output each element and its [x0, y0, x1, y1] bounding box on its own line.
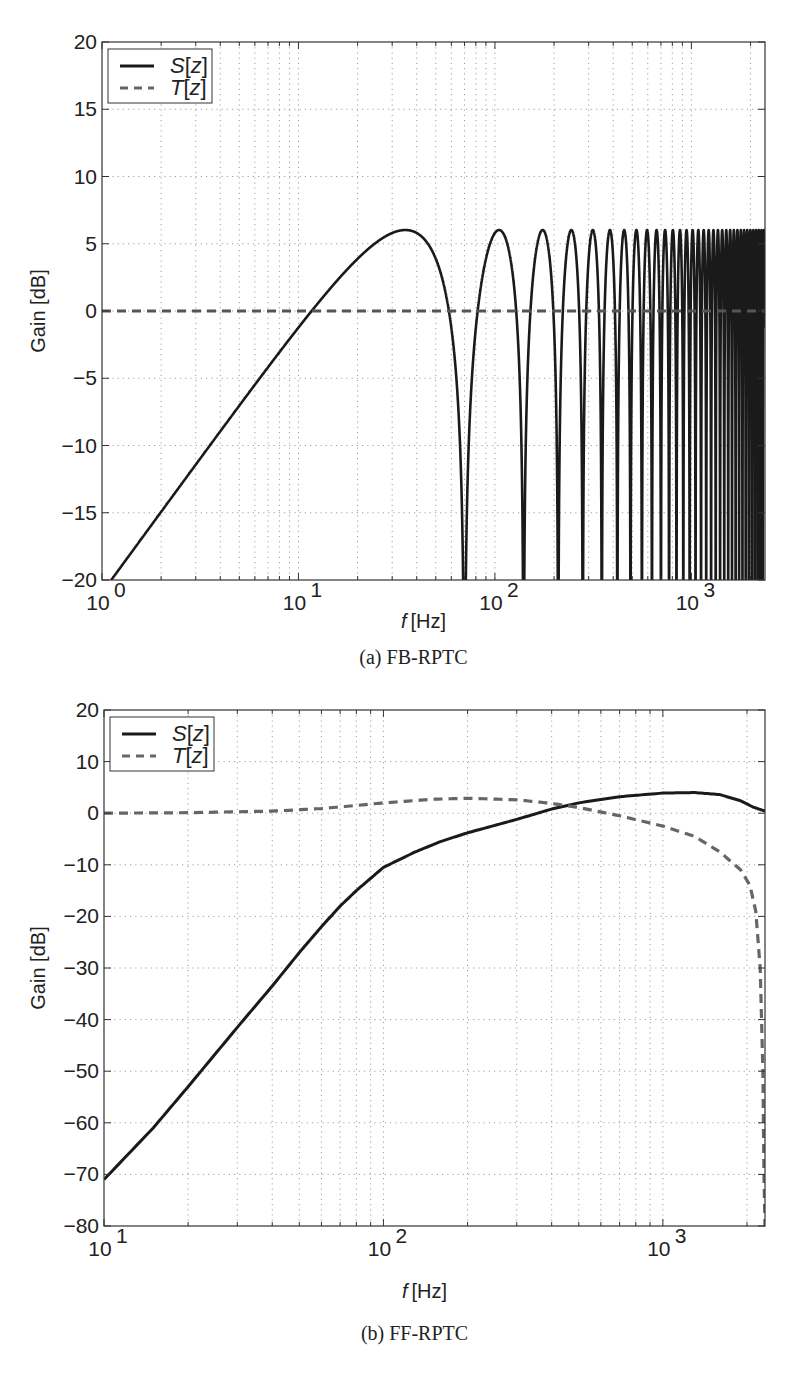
x-tick-exponent: 0 — [114, 578, 126, 601]
y-tick-label: −40 — [63, 1008, 99, 1031]
x-tick-label: 10 — [647, 1237, 670, 1260]
y-tick-label: 20 — [76, 698, 99, 721]
y-tick-label: 0 — [87, 801, 99, 824]
x-tick-exponent: 3 — [703, 578, 715, 601]
y-tick-label: −10 — [61, 434, 97, 457]
y-tick-label: 10 — [76, 750, 99, 773]
y-tick-label: 20 — [74, 30, 97, 53]
y-tick-label: −20 — [61, 568, 97, 591]
curves-b — [104, 793, 765, 1226]
y-tick-label: −10 — [63, 853, 99, 876]
y-tick-label: 15 — [74, 97, 97, 120]
x-tick-label: 10 — [86, 591, 109, 614]
y-tick-label: −15 — [61, 501, 97, 524]
series-sz-line — [102, 230, 765, 607]
x-tick-label: 10 — [368, 1237, 391, 1260]
x-tick-exponent: 2 — [507, 578, 519, 601]
y-tick-label: −60 — [63, 1111, 99, 1134]
legend-b: S[z]T[z] — [110, 717, 214, 771]
y-axis-label-a: Gain [dB] — [27, 269, 49, 352]
y-tick-label: −70 — [63, 1162, 99, 1185]
figure: 10010110210320151050−5−10−15−20 S[z]T[z]… — [0, 0, 805, 1388]
x-tick-label: 10 — [283, 591, 306, 614]
y-tick-label: 5 — [85, 232, 97, 255]
curves-a — [102, 230, 765, 607]
y-tick-label: −20 — [63, 904, 99, 927]
x-tick-exponent: 3 — [675, 1224, 687, 1247]
caption-b: (b) FF-RPTC — [361, 1322, 468, 1345]
y-tick-label: −5 — [73, 366, 97, 389]
x-axis-label-a: f[Hz] — [401, 610, 446, 632]
y-axis-label-b: Gain [dB] — [27, 926, 49, 1009]
legend-label: T[z] — [172, 743, 209, 768]
x-tick-label: 10 — [479, 591, 502, 614]
y-tick-label: 0 — [85, 299, 97, 322]
legend-a: S[z]T[z] — [108, 49, 212, 103]
x-tick-exponent: 1 — [310, 578, 322, 601]
x-tick-label: 10 — [676, 591, 699, 614]
x-axis-label-b: f[Hz] — [402, 1280, 447, 1302]
plot-fb-rptc: 10010110210320151050−5−10−15−20 S[z]T[z]… — [27, 30, 765, 669]
y-tick-label: −30 — [63, 956, 99, 979]
ticks-b: 10110210320100−10−20−30−40−50−60−70−80 — [63, 698, 765, 1260]
x-tick-exponent: 2 — [395, 1224, 407, 1247]
x-tick-exponent: 1 — [116, 1224, 128, 1247]
plot-ff-rptc: 10110210320100−10−20−30−40−50−60−70−80 S… — [27, 698, 765, 1345]
series-tz-line — [104, 798, 765, 1226]
series-sz-line — [104, 793, 765, 1180]
y-tick-label: −80 — [63, 1214, 99, 1237]
grid-b — [104, 710, 765, 1226]
x-tick-label: 10 — [88, 1237, 111, 1260]
y-tick-label: −50 — [63, 1059, 99, 1082]
caption-a: (a) FB-RPTC — [359, 646, 467, 669]
y-tick-label: 10 — [74, 165, 97, 188]
legend-label: T[z] — [170, 75, 207, 100]
